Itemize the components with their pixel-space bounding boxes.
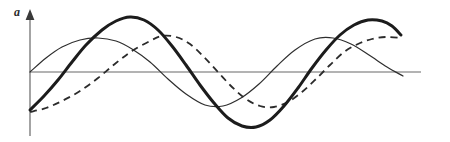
- wave-figure: a: [0, 0, 450, 142]
- axis-arrow-icon: [26, 9, 35, 20]
- wave-plot-canvas: [0, 0, 450, 142]
- amplitude-axis-label: a: [14, 6, 20, 18]
